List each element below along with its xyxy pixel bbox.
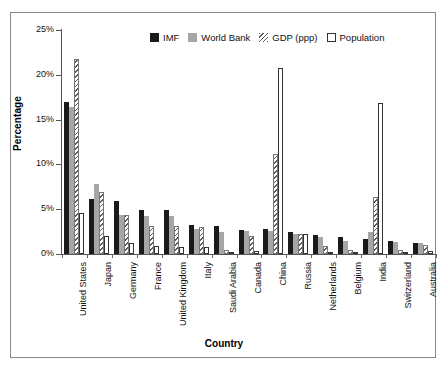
x-category-label: Belgium <box>353 262 363 295</box>
bar-group <box>64 30 84 254</box>
x-category-label: India <box>378 262 388 282</box>
x-tick-mark <box>212 254 213 258</box>
x-tick-mark <box>261 254 262 258</box>
bar-population <box>154 246 159 254</box>
y-tick-mark <box>56 209 61 210</box>
bar-group <box>114 30 134 254</box>
bar-group <box>89 30 109 254</box>
x-axis-line <box>61 254 436 255</box>
x-category-label: Saudi Arabia <box>228 262 238 313</box>
bar-population <box>278 68 283 254</box>
y-tick-label: 10% <box>26 159 54 168</box>
x-tick-mark <box>112 254 113 258</box>
y-tick-label: 15% <box>26 115 54 124</box>
x-tick-mark <box>162 254 163 258</box>
bar-group <box>363 30 383 254</box>
y-tick-mark <box>56 120 61 121</box>
bar-group <box>338 30 358 254</box>
y-tick-label: 0% <box>26 249 54 258</box>
bar-population <box>204 247 209 254</box>
y-tick-label: 20% <box>26 70 54 79</box>
bar-group <box>139 30 159 254</box>
x-category-label: France <box>153 262 163 290</box>
x-category-label: United States <box>78 262 88 316</box>
y-tick-mark <box>56 254 61 255</box>
bar-group <box>288 30 308 254</box>
bar-group <box>239 30 259 254</box>
x-category-label: China <box>278 262 288 286</box>
x-category-label: Russia <box>303 262 313 290</box>
x-tick-mark <box>361 254 362 258</box>
x-tick-mark <box>311 254 312 258</box>
y-tick-mark <box>56 30 61 31</box>
bar-group <box>189 30 209 254</box>
x-category-label: Netherlands <box>328 262 338 311</box>
bar-population <box>104 236 109 254</box>
x-category-label: United Kingdom <box>178 262 188 326</box>
bar-population <box>403 252 408 254</box>
bar-group <box>263 30 283 254</box>
y-axis-title: Percentage <box>12 84 23 164</box>
y-tick-mark <box>56 164 61 165</box>
x-tick-mark <box>62 254 63 258</box>
x-tick-mark <box>237 254 238 258</box>
x-category-label: Switzerland <box>403 262 413 309</box>
x-axis-title: Country <box>0 338 448 349</box>
bar-group <box>388 30 408 254</box>
bar-group <box>164 30 184 254</box>
bar-group <box>413 30 433 254</box>
x-tick-mark <box>87 254 88 258</box>
bar-group <box>214 30 234 254</box>
x-tick-mark <box>336 254 337 258</box>
y-tick-label: 5% <box>26 204 54 213</box>
x-category-label: Italy <box>203 262 213 279</box>
x-tick-mark <box>436 254 437 258</box>
bar-population <box>303 234 308 254</box>
x-category-label: Canada <box>253 262 263 294</box>
bar-population <box>428 251 433 254</box>
x-tick-mark <box>137 254 138 258</box>
bar-population <box>328 252 333 254</box>
x-tick-mark <box>286 254 287 258</box>
bar-groups <box>62 30 436 254</box>
x-category-label: Australia <box>428 262 438 297</box>
bar-population <box>254 251 259 254</box>
bar-group <box>313 30 333 254</box>
x-tick-mark <box>411 254 412 258</box>
bar-population <box>129 243 134 254</box>
x-category-label: Japan <box>103 262 113 287</box>
bar-population <box>179 247 184 254</box>
chart-page: 0%5%10%15%20%25% Percentage Country IMF … <box>0 0 448 370</box>
bar-population <box>229 252 234 254</box>
x-tick-mark <box>386 254 387 258</box>
x-tick-mark <box>187 254 188 258</box>
y-tick-label: 25% <box>26 25 54 34</box>
y-tick-mark <box>56 75 61 76</box>
y-axis-tick-labels: 0%5%10%15%20%25% <box>22 0 54 370</box>
bar-population <box>353 252 358 254</box>
x-category-label: Germany <box>128 262 138 299</box>
bar-population <box>79 213 84 254</box>
bar-population <box>378 103 383 254</box>
